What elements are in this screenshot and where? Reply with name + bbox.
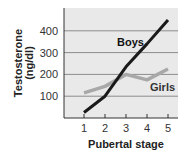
boys-label: Boys [117,36,144,48]
x-axis-label: Pubertal stage [88,138,164,150]
y-tick-label: 200 [40,68,58,80]
y-axis-label-line2: (ng/dl) [23,46,35,80]
y-tick-label: 300 [40,47,58,59]
y-tick-label: 100 [40,90,58,102]
plot-area [64,8,178,118]
girls-label: Girls [150,81,175,93]
x-tick-label: 5 [165,122,171,134]
x-tick-label: 2 [102,122,108,134]
x-tick-label: 4 [144,122,150,134]
y-tick-label: 400 [40,25,58,37]
x-tick-label: 1 [81,122,87,134]
chart-svg: 100200300400 12345 Boys Girls Pubertal s… [0,0,188,159]
y-tick-labels: 100200300400 [40,25,58,102]
x-tick-label: 3 [123,122,129,134]
